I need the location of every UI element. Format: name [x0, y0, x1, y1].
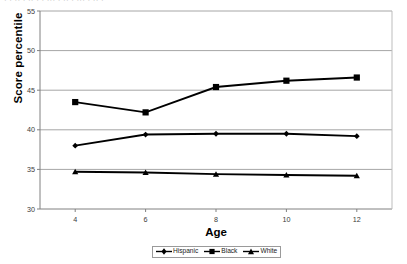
y-tick-label: 55	[27, 7, 35, 16]
data-point-marker	[354, 74, 360, 80]
y-axis-title: Score percentile	[12, 0, 24, 123]
plot-area-background	[40, 11, 392, 209]
x-axis-tick-labels: 4681012	[73, 215, 361, 224]
y-tick-label: 35	[27, 165, 35, 174]
x-tick-label: 10	[282, 215, 290, 224]
x-tick-label: 8	[214, 215, 218, 224]
legend-marker-triangle-icon	[243, 247, 259, 256]
x-axis-title: Age	[40, 226, 392, 238]
legend-marker-diamond-icon	[156, 247, 172, 256]
x-tick-label: 6	[144, 215, 148, 224]
chart-legend: Hispanic Black White	[152, 246, 281, 258]
legend-item-black[interactable]: Black	[204, 247, 237, 256]
data-point-marker	[143, 109, 149, 115]
legend-label-white: White	[260, 248, 277, 255]
data-point-marker	[72, 99, 78, 105]
legend-item-hispanic[interactable]: Hispanic	[156, 247, 198, 256]
y-tick-label: 50	[27, 46, 35, 55]
y-tick-label: 40	[27, 125, 35, 134]
legend-label-black: Black	[221, 248, 237, 255]
y-tick-label: 30	[27, 205, 35, 214]
data-point-marker	[283, 78, 289, 84]
x-tick-label: 12	[353, 215, 361, 224]
plot-canvas: 303540455055 4681012	[0, 0, 407, 264]
y-tick-label: 45	[27, 86, 35, 95]
legend-label-hispanic: Hispanic	[173, 248, 198, 255]
x-tick-label: 4	[73, 215, 77, 224]
legend-marker-square-icon	[204, 247, 220, 256]
legend-item-white[interactable]: White	[243, 247, 277, 256]
chart-figure: · · ·· · ·· · · ··· · ·· · ··· · ·· · 30…	[0, 0, 407, 264]
data-point-marker	[213, 84, 219, 90]
y-axis-tick-labels: 303540455055	[27, 7, 35, 214]
